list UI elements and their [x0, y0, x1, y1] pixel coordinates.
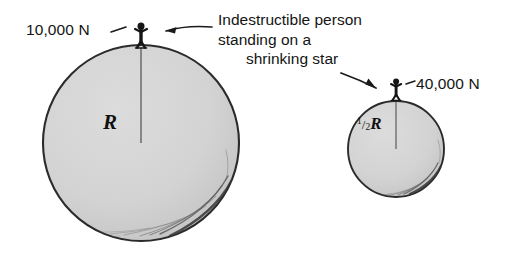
radius-symbol: R: [370, 114, 381, 133]
force-label-large-star: 10,000 N: [26, 22, 90, 38]
person-on-small-star: [391, 79, 401, 101]
shrinking-star-figure: 10,000 N 40,000 N Indestructible person …: [0, 0, 514, 257]
caption-arrow-to-large-person: [166, 27, 212, 34]
large-star-group: [43, 23, 239, 241]
radius-label-small-star: 1/2R: [357, 114, 381, 134]
small-star-force-leader: [406, 81, 415, 84]
caption-line-2: standing on a: [218, 30, 362, 50]
fraction-numerator: 1: [357, 116, 362, 126]
caption-line-3: shrinking star: [218, 49, 362, 69]
large-star-force-leader: [111, 27, 126, 32]
radius-label-large-star: R: [103, 110, 117, 135]
caption-arrow-to-small-person: [341, 73, 376, 88]
caption: Indestructible person standing on a shri…: [218, 10, 362, 69]
force-label-small-star: 40,000 N: [416, 76, 480, 92]
caption-line-1: Indestructible person: [218, 10, 362, 30]
small-star-group: [348, 79, 444, 198]
radius-fraction: 1/2: [357, 117, 370, 132]
